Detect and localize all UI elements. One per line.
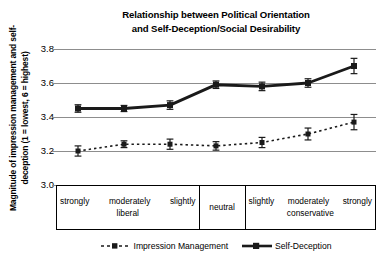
legend-label-self-deception: Self-Deception xyxy=(275,241,331,251)
x-label-strongly-conservative: strongly xyxy=(343,196,372,208)
x-group-neutral: neutral xyxy=(199,186,245,229)
legend-dashed-line-icon xyxy=(101,241,131,251)
x-group-label-conservative: conservative xyxy=(249,208,372,220)
x-label-slightly-conservative: slightly xyxy=(249,196,275,208)
x-label-neutral: neutral xyxy=(209,202,235,214)
chart-legend: Impression Management Self-Deception xyxy=(56,236,376,256)
data-point-self-deception xyxy=(305,80,311,86)
x-group-label-liberal: liberal xyxy=(60,208,196,220)
x-axis-category-boxes: strongly moderately slightly liberal neu… xyxy=(56,185,376,230)
plot-area xyxy=(56,49,376,185)
y-axis-tick-labels: 3.8 3.6 3.4 3.2 3.0 xyxy=(28,0,54,265)
legend-item-self-deception: Self-Deception xyxy=(242,241,331,251)
data-point-self-deception xyxy=(121,106,127,112)
data-point-impression-management xyxy=(352,120,357,125)
x-label-moderately-conservative: moderately xyxy=(288,196,329,208)
legend-label-impression-management: Impression Management xyxy=(134,241,229,251)
x-group-conservative: slightly moderately strongly conservativ… xyxy=(245,186,375,229)
data-point-impression-management xyxy=(260,140,265,145)
data-point-self-deception xyxy=(351,63,357,69)
data-point-self-deception xyxy=(213,82,219,88)
chart-title: Relationship between Political Orientati… xyxy=(56,8,376,35)
data-point-self-deception xyxy=(167,102,173,108)
data-point-impression-management xyxy=(214,143,219,148)
data-point-self-deception xyxy=(259,83,265,89)
y-axis-title-line-1: Magnitude of impression management and s… xyxy=(8,3,20,233)
chart-title-line-2: and Self-Deception/Social Desirability xyxy=(56,22,376,36)
y-tick-label: 3.6 xyxy=(30,78,54,88)
data-point-self-deception xyxy=(75,106,81,112)
data-point-impression-management xyxy=(76,149,81,154)
data-point-impression-management xyxy=(122,142,127,147)
y-tick-label: 3.0 xyxy=(30,180,54,190)
y-tick-label: 3.2 xyxy=(30,146,54,156)
x-label-slightly-liberal: slightly xyxy=(170,196,196,208)
y-tick-label: 3.4 xyxy=(30,112,54,122)
x-group-liberal: strongly moderately slightly liberal xyxy=(57,186,199,229)
series-impression-management xyxy=(75,114,358,156)
data-point-impression-management xyxy=(168,142,173,147)
legend-item-impression-management: Impression Management xyxy=(101,241,229,251)
legend-solid-line-icon xyxy=(242,241,272,251)
series-self-deception xyxy=(75,58,358,112)
data-point-impression-management xyxy=(306,132,311,137)
chart-figure: Relationship between Political Orientati… xyxy=(0,0,382,265)
chart-title-line-1: Relationship between Political Orientati… xyxy=(56,8,376,22)
x-label-strongly-liberal: strongly xyxy=(60,196,89,208)
x-label-moderately-liberal: moderately xyxy=(109,196,150,208)
y-tick-label: 3.8 xyxy=(30,44,54,54)
data-series-layer xyxy=(56,49,376,185)
